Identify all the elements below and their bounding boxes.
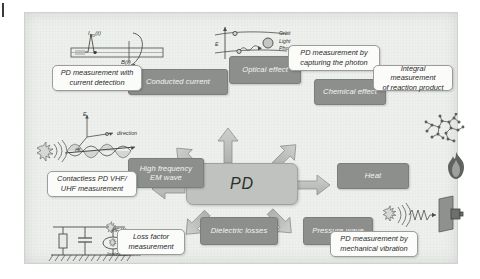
effect-label: Chemical effect xyxy=(323,87,377,96)
page-edge-mark xyxy=(2,3,4,17)
electromagnetic-wave xyxy=(35,113,143,167)
effect-label: Optical effect xyxy=(242,65,288,74)
label-e-field: E xyxy=(83,111,87,117)
callout-label: Loss factor measurement xyxy=(128,232,173,251)
effect-label: Dielectric losses xyxy=(211,226,268,235)
callout-label: PD measurement by capturing the photon xyxy=(300,48,367,67)
effect-box-dielectric-losses[interactable]: Dielectric losses xyxy=(200,217,278,245)
label-e-orbit: E xyxy=(215,41,219,47)
label-ipd: IPD(t) xyxy=(88,30,101,38)
callout-capturing-photon[interactable]: PD measurement by capturing the photon xyxy=(288,45,380,71)
effect-box-hf-em-wave[interactable]: High frequency EM wave xyxy=(128,158,204,188)
callout-reaction-product[interactable]: Integral measurement of reaction product xyxy=(373,65,453,91)
reaction-product-molecule xyxy=(421,113,465,145)
flame-heat-icon xyxy=(443,151,469,181)
label-light: Light xyxy=(279,38,291,44)
center-node-label: PD xyxy=(230,175,254,193)
arrow-up xyxy=(218,128,238,163)
arrow-right xyxy=(297,175,330,195)
label-direction: direction xyxy=(117,130,137,136)
callout-label: PD measurement with current detection xyxy=(61,68,134,87)
effect-box-heat[interactable]: Heat xyxy=(337,163,409,189)
diagram-canvas: IPD(t) B(t) E Orbit Lig xyxy=(0,0,480,279)
callout-label: Integral measurement of reaction product xyxy=(378,64,448,93)
effect-label: Heat xyxy=(365,171,381,180)
label-orbit: Orbit xyxy=(279,30,290,36)
callout-mechanical-vibration[interactable]: PD measurement by mechanical vibration xyxy=(330,231,418,257)
effect-label: High frequency EM wave xyxy=(140,164,192,183)
callout-current-detection[interactable]: PD measurement with current detection xyxy=(52,65,142,91)
callout-loss-factor[interactable]: Loss factor measurement xyxy=(117,229,185,255)
label-h-field: H xyxy=(75,147,79,153)
effect-label: Conducted current xyxy=(146,77,210,86)
callout-label: PD measurement by mechanical vibration xyxy=(340,234,407,253)
callout-label: Contactless PD VHF/ UHF measurement xyxy=(57,174,127,193)
diagram-frame: IPD(t) B(t) E Orbit Lig xyxy=(24,12,458,264)
effect-box-conducted-current[interactable]: Conducted current xyxy=(128,69,228,95)
callout-vhf-uhf[interactable]: Contactless PD VHF/ UHF measurement xyxy=(47,171,137,197)
